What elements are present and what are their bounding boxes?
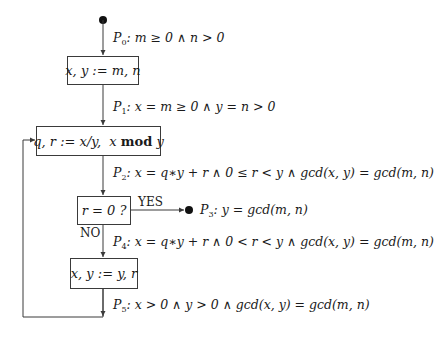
yes-label: YES: [138, 195, 163, 209]
divmod-text-pre: q, r := x/y, x: [33, 134, 121, 149]
assertion-p1: P1: x = m ≥ 0 ∧ y = n > 0: [113, 99, 275, 116]
mod-keyword: mod: [121, 134, 153, 149]
assertion-p4: P4: x = q∗y + r ∧ 0 < r < y ∧ gcd(x, y) …: [113, 234, 434, 251]
assertion-p0: P0: m ≥ 0 ∧ n > 0: [113, 30, 224, 47]
divmod-text-post: y: [152, 134, 163, 149]
swap-box: x, y := y, r: [70, 258, 138, 289]
no-label: NO: [80, 226, 100, 240]
assertion-p2: P2: x = q∗y + r ∧ 0 ≤ r < y ∧ gcd(x, y) …: [113, 165, 434, 182]
test-box: r = 0 ?: [77, 196, 131, 225]
end-dot: [185, 206, 193, 214]
assertion-p5: P5: x > 0 ∧ y > 0 ∧ gcd(x, y) = gcd(m, n…: [113, 297, 370, 314]
test-text: r = 0 ?: [82, 203, 127, 218]
swap-text: x, y := y, r: [71, 266, 138, 281]
assertion-p3: P3: y = gcd(m, n): [200, 202, 308, 219]
divmod-box: q, r := x/y, x mod y: [36, 126, 161, 156]
init-box: x, y := m, n: [67, 56, 139, 85]
init-text: x, y := m, n: [65, 63, 140, 78]
